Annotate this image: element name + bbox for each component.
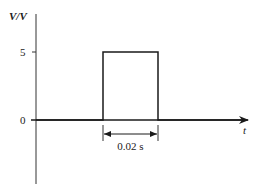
y-axis-label: V/V [9,10,28,22]
tick-label-0: 0 [20,114,26,126]
x-axis-label: t [243,124,247,136]
pulse-diagram: V/V 5 0 t 0.02 s [0,0,261,192]
pulse-width-label: 0.02 s [117,140,143,152]
pulse-waveform [36,52,245,120]
tick-label-5: 5 [20,46,26,58]
